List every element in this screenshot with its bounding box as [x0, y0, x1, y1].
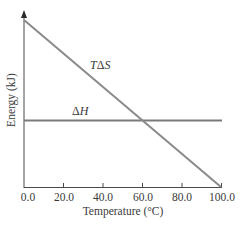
x-tick-label: 20.0 — [54, 191, 74, 203]
x-tick-label: 40.0 — [93, 191, 113, 203]
y-axis-arrow-icon — [21, 10, 27, 18]
label-part: H — [80, 104, 89, 118]
x-tick-label: 60.0 — [133, 191, 153, 203]
x-tick-label: 0.0 — [21, 191, 35, 203]
x-tick-label: 80.0 — [172, 191, 192, 203]
label-part: T — [90, 58, 97, 72]
label-part: S — [104, 58, 110, 72]
chart: 0.0 20.0 40.0 60.0 80.0 100.0 Temperatur… — [0, 0, 243, 225]
x-ticks — [64, 183, 222, 187]
series-label-tds: TΔS — [90, 58, 110, 73]
x-axis-title: Temperature (°C) — [83, 205, 164, 217]
x-tick-label: 100.0 — [209, 191, 235, 203]
series-tds-line — [24, 20, 221, 187]
plot-area — [0, 0, 243, 225]
label-part: Δ — [72, 104, 80, 118]
series-label-dh: ΔH — [72, 104, 88, 119]
y-axis-title: Energy (kJ) — [5, 73, 17, 127]
